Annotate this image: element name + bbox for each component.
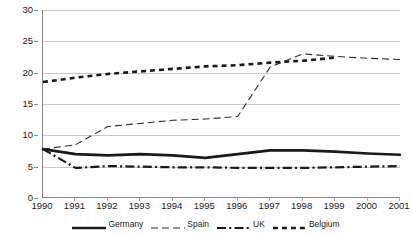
x-tick-label-2001: 2001 [388, 201, 409, 211]
legend-label: Belgium [309, 220, 340, 229]
y-tick-label-15: 15 [22, 99, 33, 109]
x-tick-label-1995: 1995 [194, 201, 215, 211]
legend-swatch-belgium [273, 219, 307, 229]
x-tick-label-2000: 2000 [356, 201, 377, 211]
legend-label: UK [253, 220, 265, 229]
y-tick-label-10: 10 [22, 131, 33, 141]
y-tick-mark-20 [34, 73, 38, 74]
y-tick-label-20: 20 [22, 68, 33, 78]
x-tick-label-1990: 1990 [31, 201, 52, 211]
series-line-spain [43, 54, 400, 149]
y-tick-mark-10 [34, 135, 38, 136]
y-axis: 051015202530 [0, 10, 38, 198]
legend-entry-uk[interactable]: UK [217, 219, 265, 229]
legend-label: Spain [187, 220, 209, 229]
y-tick-mark-30 [34, 10, 38, 11]
y-tick-mark-0 [34, 198, 38, 199]
line-chart: 051015202530 199019911992199319941995199… [0, 0, 412, 235]
y-tick-mark-15 [34, 104, 38, 105]
x-tick-label-1993: 1993 [129, 201, 150, 211]
legend-entry-germany[interactable]: Germany [72, 219, 143, 229]
y-tick-label-30: 30 [22, 5, 33, 15]
plot-area [42, 10, 400, 198]
series-line-germany [43, 149, 400, 158]
x-tick-label-1991: 1991 [64, 201, 85, 211]
series-line-belgium [43, 58, 335, 82]
x-tick-label-1996: 1996 [226, 201, 247, 211]
legend-swatch-spain [151, 219, 185, 229]
legend-label: Germany [108, 220, 143, 229]
series-layer [43, 10, 401, 198]
y-tick-label-5: 5 [28, 162, 33, 172]
x-tick-label-1999: 1999 [324, 201, 345, 211]
x-axis: 1990199119921993199419951996199719981999… [42, 201, 400, 217]
y-tick-label-25: 25 [22, 37, 33, 47]
x-tick-label-1997: 1997 [259, 201, 280, 211]
legend-swatch-germany [72, 219, 106, 229]
y-tick-mark-25 [34, 41, 38, 42]
x-tick-label-1992: 1992 [96, 201, 117, 211]
chart-legend: GermanySpainUKBelgium [0, 216, 412, 232]
legend-entry-spain[interactable]: Spain [151, 219, 209, 229]
x-tick-label-1998: 1998 [291, 201, 312, 211]
y-tick-mark-5 [34, 167, 38, 168]
x-tick-label-1994: 1994 [161, 201, 182, 211]
legend-entry-belgium[interactable]: Belgium [273, 219, 340, 229]
legend-swatch-uk [217, 219, 251, 229]
